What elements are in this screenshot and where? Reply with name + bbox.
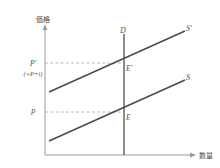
demand-curve-label: D (119, 26, 126, 35)
axes-group (43, 24, 196, 157)
guide-lines-group (45, 63, 124, 112)
price-taxed-label: P' (29, 59, 37, 68)
x-axis-arrow-icon (190, 153, 196, 158)
supply-curve-taxed-line (49, 31, 185, 92)
price-taxed-formula-label: (=P+t) (24, 70, 43, 78)
equilibrium-taxed-label: E' (125, 64, 133, 73)
supply-curve-original-line (49, 80, 185, 141)
equilibrium-original-label: E (125, 113, 131, 122)
chart-canvas: 価格 数量 S' S D E' E P' (=P+t) P (0, 0, 220, 168)
supply-demand-chart: 価格 数量 S' S D E' E P' (=P+t) P (0, 0, 220, 168)
y-axis-title: 価格 (36, 15, 50, 24)
x-axis-title: 数量 (199, 151, 213, 160)
supply-curve-taxed-label: S' (186, 24, 192, 33)
y-axis-arrow-icon (43, 24, 48, 30)
price-original-label: P (30, 108, 36, 117)
supply-curve-original-label: S (186, 73, 190, 82)
